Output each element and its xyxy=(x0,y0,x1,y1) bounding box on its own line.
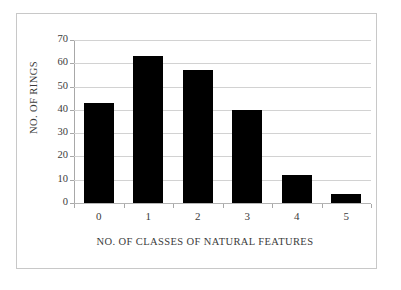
x-axis-tick xyxy=(74,204,75,208)
gridline xyxy=(74,63,371,64)
y-axis-tick xyxy=(70,110,74,111)
gridline xyxy=(74,110,371,111)
x-axis-tick-label: 3 xyxy=(222,211,272,222)
y-axis-tick xyxy=(70,180,74,181)
x-axis-tick-label: 0 xyxy=(74,211,124,222)
x-axis-tick xyxy=(272,204,273,208)
x-axis-tick-label: 5 xyxy=(321,211,371,222)
bar xyxy=(232,110,262,203)
bar xyxy=(282,175,312,203)
y-axis-tick-label: 60 xyxy=(28,57,68,68)
gridline xyxy=(74,40,371,41)
bar xyxy=(183,70,213,203)
bar-chart-figure: NO. OF RINGS 010203040506070 NO. OF CLAS… xyxy=(0,0,401,290)
y-axis-tick xyxy=(70,40,74,41)
x-axis-tick xyxy=(173,204,174,208)
x-axis-tick xyxy=(223,204,224,208)
x-axis-tick-label: 2 xyxy=(173,211,223,222)
y-axis-tick xyxy=(70,63,74,64)
bar xyxy=(331,194,361,203)
x-axis-tick-label: 1 xyxy=(123,211,173,222)
gridline xyxy=(74,133,371,134)
x-axis-title: NO. OF CLASSES OF NATURAL FEATURES xyxy=(40,236,370,247)
bar xyxy=(84,103,114,203)
y-axis-tick xyxy=(70,87,74,88)
y-axis-tick-label: 30 xyxy=(28,127,68,138)
gridline xyxy=(74,180,371,181)
y-axis-tick-label: 0 xyxy=(28,197,68,208)
x-axis-tick xyxy=(322,204,323,208)
y-axis-tick-label: 70 xyxy=(28,34,68,45)
gridline xyxy=(74,156,371,157)
y-axis-tick-label: 10 xyxy=(28,174,68,185)
y-axis-tick-label: 20 xyxy=(28,150,68,161)
gridline xyxy=(74,87,371,88)
x-axis-tick xyxy=(124,204,125,208)
bar xyxy=(133,56,163,203)
plot-area xyxy=(74,40,371,203)
y-axis-tick-label: 40 xyxy=(28,104,68,115)
y-axis-tick xyxy=(70,156,74,157)
y-axis-tick-label: 50 xyxy=(28,81,68,92)
y-axis-tick xyxy=(70,133,74,134)
x-axis-tick xyxy=(371,204,372,208)
x-axis-tick-label: 4 xyxy=(272,211,322,222)
